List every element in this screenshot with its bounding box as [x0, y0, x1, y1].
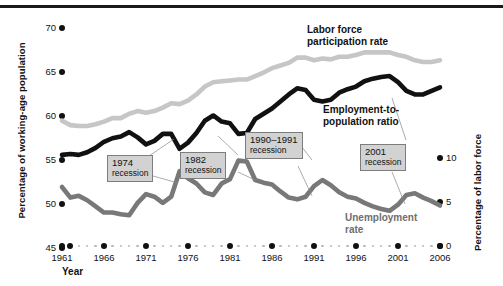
unemp-label-line2: rate [345, 224, 363, 235]
lfpr-label-line2: participation rate [307, 36, 388, 47]
callout-2001-year: 2001 [365, 146, 401, 157]
callout-1982-recession: 1982 recession [180, 152, 226, 179]
epop-label-line2: population ratio [323, 116, 399, 127]
callout-1974-recession: 1974 recession [107, 155, 153, 182]
callout-1990-1991-recession: 1990–1991 recession [245, 132, 303, 159]
lfpr-label-line1: Labor force [307, 24, 362, 35]
callout-1990-1991-year: 1990–1991 [250, 134, 298, 145]
callout-1990-1991-word: recession [250, 145, 298, 156]
callout-1974-word: recession [112, 168, 148, 179]
chart-figure: Percentage of working-age population Per… [0, 0, 503, 286]
series-label-labor-force-participation-rate: Labor force participation rate [307, 24, 388, 47]
callout-1974-year: 1974 [112, 157, 148, 168]
unemp-label-line1: Unemployment [345, 212, 417, 223]
callout-1982-word: recession [185, 165, 221, 176]
series-label-employment-to-population-ratio: Employment-to- population ratio [323, 104, 399, 127]
series-label-unemployment-rate: Unemployment rate [345, 212, 417, 235]
callout-1982-year: 1982 [185, 154, 221, 165]
callout-2001-word: recession [365, 157, 401, 168]
epop-label-line1: Employment-to- [323, 104, 399, 115]
callout-2001-recession: 2001 recession [360, 144, 406, 171]
